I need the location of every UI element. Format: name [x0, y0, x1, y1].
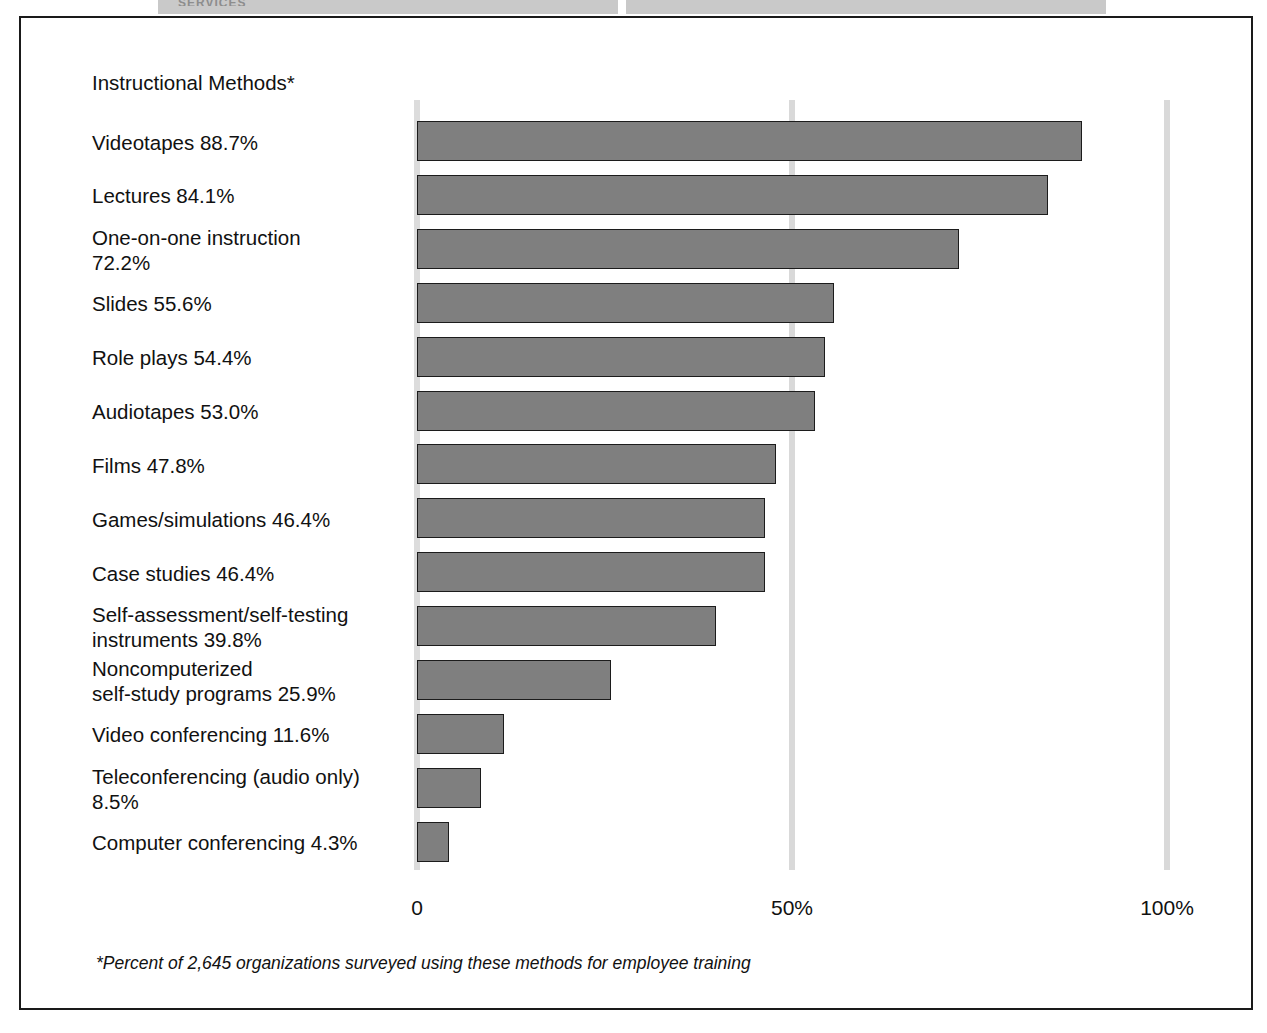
- bar-label-line: Computer conferencing 4.3%: [92, 830, 402, 855]
- bar: [417, 175, 1048, 215]
- bar-row: Role plays 54.4%: [21, 337, 1255, 391]
- bar-label-line: 8.5%: [92, 789, 402, 814]
- figure-frame: Instructional Methods* Videotapes 88.7%L…: [19, 16, 1253, 1010]
- bar: [417, 822, 449, 862]
- bar-row: Video conferencing 11.6%: [21, 714, 1255, 768]
- header-band-ghost-text: SERVICES: [178, 0, 246, 6]
- header-band-segment-right: [626, 0, 1106, 14]
- bar-row: Case studies 46.4%: [21, 552, 1255, 606]
- bar-label-line: Games/simulations 46.4%: [92, 507, 402, 532]
- bar-label-line: Video conferencing 11.6%: [92, 722, 402, 747]
- bar-row: Self-assessment/self-testinginstruments …: [21, 606, 1255, 660]
- bar-label: Teleconferencing (audio only)8.5%: [92, 764, 402, 814]
- bar-label: Audiotapes 53.0%: [92, 399, 402, 424]
- bar: [417, 337, 825, 377]
- bar-row: Games/simulations 46.4%: [21, 498, 1255, 552]
- bar: [417, 768, 481, 808]
- bar-label-line: Lectures 84.1%: [92, 183, 402, 208]
- bar-label-line: self-study programs 25.9%: [92, 681, 402, 706]
- bar-label-line: instruments 39.8%: [92, 627, 402, 652]
- bar-label: Noncomputerizedself-study programs 25.9%: [92, 656, 402, 706]
- bar: [417, 229, 959, 269]
- bar: [417, 121, 1082, 161]
- bar-label-line: Audiotapes 53.0%: [92, 399, 402, 424]
- bar: [417, 552, 765, 592]
- bar-chart-plot-area: Videotapes 88.7%Lectures 84.1%One-on-one…: [21, 18, 1255, 1012]
- bar-row: One-on-one instruction72.2%: [21, 229, 1255, 283]
- bar-label: Lectures 84.1%: [92, 183, 402, 208]
- bar: [417, 606, 716, 646]
- bar-row: Computer conferencing 4.3%: [21, 822, 1255, 876]
- bar: [417, 283, 834, 323]
- bar-label-line: Noncomputerized: [92, 656, 402, 681]
- bar-row: Films 47.8%: [21, 444, 1255, 498]
- axis-tick-100pct: 100%: [1122, 896, 1212, 920]
- bar: [417, 714, 504, 754]
- bar: [417, 498, 765, 538]
- bar-row: Audiotapes 53.0%: [21, 391, 1255, 445]
- bar-label: Slides 55.6%: [92, 291, 402, 316]
- bar: [417, 391, 815, 431]
- bar-label-line: One-on-one instruction: [92, 225, 402, 250]
- chart-footnote: *Percent of 2,645 organizations surveyed…: [96, 953, 751, 974]
- bar-label: Self-assessment/self-testinginstruments …: [92, 602, 402, 652]
- bar-label: One-on-one instruction72.2%: [92, 225, 402, 275]
- bar-row: Slides 55.6%: [21, 283, 1255, 337]
- bar-label: Games/simulations 46.4%: [92, 507, 402, 532]
- bar-label-line: Teleconferencing (audio only): [92, 764, 402, 789]
- bar-row: Videotapes 88.7%: [21, 121, 1255, 175]
- bar-label: Films 47.8%: [92, 453, 402, 478]
- bar-row: Noncomputerizedself-study programs 25.9%: [21, 660, 1255, 714]
- bar-label-line: Films 47.8%: [92, 453, 402, 478]
- bar-label: Case studies 46.4%: [92, 561, 402, 586]
- bar-row: Lectures 84.1%: [21, 175, 1255, 229]
- bar-label-line: Videotapes 88.7%: [92, 130, 402, 155]
- bar-label: Computer conferencing 4.3%: [92, 830, 402, 855]
- bar-label-line: Case studies 46.4%: [92, 561, 402, 586]
- bar-label-line: Slides 55.6%: [92, 291, 402, 316]
- bar-label-line: 72.2%: [92, 250, 402, 275]
- axis-tick-0: 0: [372, 896, 462, 920]
- cropped-header-band: SERVICES: [0, 0, 1267, 14]
- bar-label-line: Self-assessment/self-testing: [92, 602, 402, 627]
- bar-label: Video conferencing 11.6%: [92, 722, 402, 747]
- bar-row: Teleconferencing (audio only)8.5%: [21, 768, 1255, 822]
- bar-label: Videotapes 88.7%: [92, 130, 402, 155]
- axis-tick-50pct: 50%: [747, 896, 837, 920]
- bar-label-line: Role plays 54.4%: [92, 345, 402, 370]
- bar: [417, 444, 776, 484]
- bar-label: Role plays 54.4%: [92, 345, 402, 370]
- bar: [417, 660, 611, 700]
